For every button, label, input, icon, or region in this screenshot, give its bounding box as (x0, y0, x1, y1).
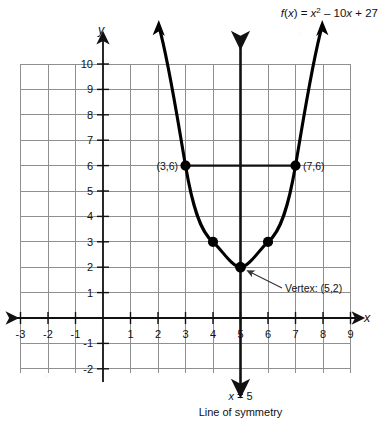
x-tick-label: 9 (347, 328, 353, 340)
y-axis-label: y (97, 23, 105, 37)
x-tick-label: -1 (71, 328, 81, 340)
x-tick-label: 7 (292, 328, 298, 340)
y-tick-label: 6 (87, 160, 93, 172)
grid-lines (21, 64, 351, 373)
x-tick-label: 4 (210, 328, 216, 340)
parabola-graph-figure: -3 -2 -1 1 2 3 4 5 6 7 8 9 10 9 8 7 6 5 … (0, 0, 385, 427)
curve-arrow-right (316, 20, 328, 36)
y-tick-label: 8 (87, 109, 93, 121)
y-tick-label: -1 (83, 337, 93, 349)
y-tick-label: 2 (87, 261, 93, 273)
y-tick-label: 4 (87, 210, 93, 222)
graph-svg: -3 -2 -1 1 2 3 4 5 6 7 8 9 10 9 8 7 6 5 … (0, 0, 385, 427)
point-marker (263, 237, 273, 247)
y-tick-label: 5 (87, 185, 93, 197)
y-tick-label: 7 (87, 134, 93, 146)
x-tick-labels: -3 -2 -1 1 2 3 4 5 6 7 8 9 (16, 328, 354, 340)
point-label-left: (3,6) (156, 160, 178, 172)
point-marker (208, 237, 218, 247)
x-axis-label: x (363, 311, 371, 325)
x-tick-label: 8 (320, 328, 326, 340)
symmetry-caption-label: Line of symmetry (199, 406, 283, 418)
y-tick-label: 1 (87, 287, 93, 299)
x-tick-label: 1 (127, 328, 133, 340)
x-tick-label: 3 (182, 328, 188, 340)
point-marker (180, 161, 190, 171)
vertex-point-marker (235, 262, 246, 273)
x-tick-label: 6 (265, 328, 271, 340)
x-tick-label: -3 (16, 328, 26, 340)
x-tick-label: -2 (43, 328, 53, 340)
y-tick-label: 10 (81, 58, 93, 70)
y-tick-label: -2 (83, 363, 93, 375)
curve-arrow-left (153, 20, 165, 36)
point-marker (290, 161, 300, 171)
symmetry-equation-label: x = 5 (227, 390, 252, 402)
y-tick-label: 3 (87, 236, 93, 248)
function-formula-label: f(x) = x2 – 10x + 27 (281, 6, 378, 20)
vertex-leader-line (250, 272, 282, 288)
y-tick-label: 9 (87, 83, 93, 95)
point-label-right: (7,6) (303, 160, 325, 172)
vertex-annotation-label: Vertex: (5,2) (285, 282, 342, 294)
x-tick-label: 2 (155, 328, 161, 340)
